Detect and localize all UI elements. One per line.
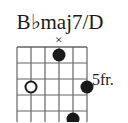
finger-dot	[53, 49, 66, 62]
open-string-dot	[26, 82, 37, 93]
mute-string-icon: ×	[55, 33, 62, 46]
chord-grid	[0, 0, 128, 122]
chord-diagram-widget: B♭maj7/D × 5fr.	[0, 0, 128, 122]
finger-dot	[67, 113, 80, 123]
fret-position-label: 5fr.	[92, 71, 114, 89]
